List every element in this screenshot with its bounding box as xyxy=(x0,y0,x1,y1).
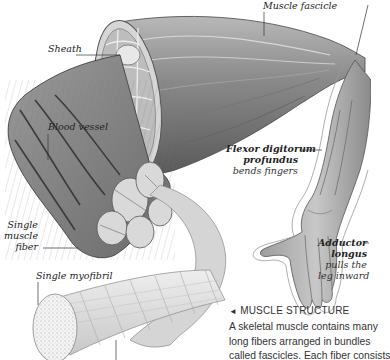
caption-title: ◄MUSCLE STRUCTURE xyxy=(229,304,371,318)
label-single-muscle-fiber-line2: muscle xyxy=(0,230,38,241)
label-sheath: Sheath xyxy=(48,43,82,54)
caption-title-text: MUSCLE STRUCTURE xyxy=(240,305,349,316)
adductor-name-line2: longus xyxy=(318,248,367,259)
caption-line: A skeletal muscle contains many xyxy=(229,320,371,335)
label-muscle-fascicle: Muscle fascicle xyxy=(263,0,337,11)
label-blood-vessel: Blood vessel xyxy=(48,121,108,132)
adductor-description-line1: pulls the xyxy=(318,259,367,270)
label-single-muscle-fiber-line3: fiber xyxy=(0,241,38,252)
label-adductor-longus: Adductor longus pulls the leg inward xyxy=(318,237,367,281)
figure-caption: ◄MUSCLE STRUCTURE A skeletal muscle cont… xyxy=(229,304,371,360)
adductor-name-line1: Adductor xyxy=(318,237,367,248)
label-single-myofibril: Single myofibril xyxy=(36,270,113,281)
flexor-name-line2: profundus xyxy=(226,154,298,165)
caption-line: long fibers arranged in bundles xyxy=(229,335,371,350)
adductor-description-line2: leg inward xyxy=(318,270,367,281)
flexor-name-line1: Flexor digitorum xyxy=(226,143,298,154)
caption-body: A skeletal muscle contains many long fib… xyxy=(229,320,371,360)
label-single-muscle-fiber-line1: Single xyxy=(0,219,38,230)
left-arrow-icon: ◄ xyxy=(229,307,237,316)
label-single-muscle-fiber: Single muscle fiber xyxy=(0,219,38,252)
label-flexor-digitorum-profundus: Flexor digitorum profundus bends fingers xyxy=(226,143,298,176)
flexor-description: bends fingers xyxy=(226,165,298,176)
caption-line: called fascicles. Each fiber consists xyxy=(229,349,371,360)
